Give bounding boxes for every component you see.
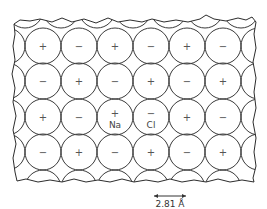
ion-partial (0, 134, 25, 170)
charge-sign: − (39, 76, 47, 87)
charge-sign: + (219, 147, 227, 158)
charge-sign: − (111, 147, 119, 158)
scale-bar-label: 2.81 Å (155, 198, 185, 209)
charge-sign: + (219, 76, 227, 87)
ion-partial (205, 170, 241, 206)
ion-partial (223, 0, 259, 28)
nacl-lattice-diagram: + − + − + − − + − + − + + − + − + − − + … (0, 0, 267, 209)
charge-sign: + (75, 76, 83, 87)
arrow-right-icon (182, 194, 186, 198)
charge-sign: − (39, 147, 47, 158)
ion-partial (79, 0, 115, 28)
charge-sign: − (147, 41, 155, 52)
charge-sign: + (147, 76, 155, 87)
charge-sign-cl: − (147, 108, 155, 119)
ion-partial (25, 170, 61, 206)
ion-partial (7, 0, 43, 28)
charge-sign: + (183, 41, 191, 52)
charge-sign: − (183, 76, 191, 87)
ion-partial (0, 99, 25, 135)
charge-sign: + (39, 112, 47, 123)
arrow-left-icon (154, 194, 158, 198)
charge-sign-na: + (111, 108, 119, 119)
charge-sign: − (75, 41, 83, 52)
ion-partial (43, 0, 79, 28)
charge-signs: + − + − + − − + − + − + + − + − + − − + … (39, 41, 227, 158)
charge-sign: − (183, 147, 191, 158)
ion-grid (0, 0, 267, 206)
charge-sign: + (111, 41, 119, 52)
scale-bar: 2.81 Å (154, 194, 186, 209)
charge-sign: + (39, 41, 47, 52)
cl-label: Cl (147, 120, 156, 130)
ion-partial (115, 0, 151, 28)
ion-partial (187, 0, 223, 28)
charge-sign: − (75, 112, 83, 123)
charge-sign: + (147, 147, 155, 158)
charge-sign: − (219, 41, 227, 52)
charge-sign: + (183, 112, 191, 123)
ion-partial (151, 0, 187, 28)
na-label: Na (109, 120, 121, 130)
ion-partial (61, 170, 97, 206)
charge-sign: − (111, 76, 119, 87)
charge-sign: + (75, 147, 83, 158)
ion-partial (97, 170, 133, 206)
ion-partial (0, 63, 25, 99)
charge-sign: − (219, 112, 227, 123)
